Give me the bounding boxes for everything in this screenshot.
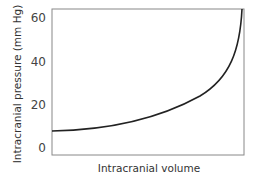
x-axis-label: Intracranial volume — [98, 162, 200, 174]
plot-frame — [52, 9, 244, 155]
pressure-curve — [52, 9, 242, 131]
svg-text:Intracranial pressure (mm Hg): Intracranial pressure (mm Hg) — [11, 5, 23, 164]
y-tick-40: 40 — [31, 55, 46, 69]
y-tick-0: 0 — [38, 141, 46, 155]
y-ticks: 0 20 40 60 — [31, 11, 46, 155]
y-tick-20: 20 — [31, 98, 46, 112]
y-tick-60: 60 — [31, 11, 46, 25]
pressure-volume-chart: Intracranial pressure (mm Hg) 0 20 40 60… — [0, 0, 259, 179]
y-axis-label: Intracranial pressure (mm Hg) — [11, 5, 23, 164]
